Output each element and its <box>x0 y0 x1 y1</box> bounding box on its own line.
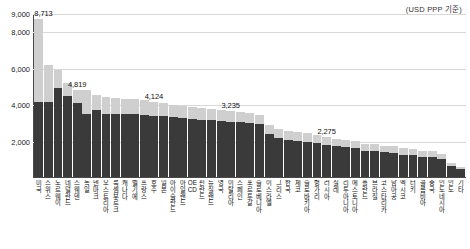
x-axis-label: 캐나다 <box>120 180 130 246</box>
x-axis-label: 기타 <box>456 180 466 246</box>
bar-segment-dark <box>102 114 111 177</box>
bar-segment-light <box>361 144 370 151</box>
x-axis-label: 중국 <box>427 180 437 246</box>
bar-segment-light <box>380 146 389 153</box>
bar-column <box>447 14 456 177</box>
bar-segment-dark <box>178 118 187 177</box>
bar-segment-light <box>217 110 226 121</box>
bar-column <box>217 14 226 177</box>
bar-segment-light <box>284 131 293 140</box>
bar-segment-dark <box>111 114 120 177</box>
x-axis-label: 스페인 <box>235 180 245 246</box>
x-axis-label: 러시아 <box>322 180 332 246</box>
bar-column <box>207 14 216 177</box>
bar-segment-dark <box>341 147 350 177</box>
bar-segment-dark <box>437 159 446 177</box>
x-axis-label: 헝가리 <box>312 180 322 246</box>
bar-column <box>188 14 197 177</box>
bar-segment-light <box>332 139 341 147</box>
chart-plot-area: 2,0004,0006,0008,0009,000 8,7134,8194,12… <box>33 14 466 178</box>
bar-column <box>418 14 427 177</box>
bar-segment-light <box>44 65 53 103</box>
x-axis-label: 벨기에 <box>130 180 140 246</box>
bar-column <box>159 14 168 177</box>
bar-column <box>63 14 72 177</box>
x-axis-label: 인도네시아 <box>437 180 447 246</box>
bar-segment-light <box>274 129 283 138</box>
bar-segment-dark <box>428 157 437 177</box>
bar-segment-dark <box>217 121 226 177</box>
bar-segment-light <box>293 132 302 140</box>
x-axis-label: 호주 <box>149 180 159 246</box>
x-axis-label: 슬로베니아 <box>255 180 265 246</box>
bar-segment-dark <box>351 148 360 177</box>
bar-column <box>399 14 408 177</box>
bar-segment-light <box>313 135 322 143</box>
bar-segment-light <box>188 107 197 119</box>
bar-segment-light <box>169 105 178 118</box>
unit-caption: (USD PPP 기준) <box>406 3 462 14</box>
x-axis-label: 룩셈부르크 <box>111 180 121 246</box>
bar-column <box>178 14 187 177</box>
bar-segment-dark <box>121 114 130 177</box>
bar-segment-light <box>92 95 101 109</box>
bar-segment-dark <box>54 88 63 177</box>
bar-segment-dark <box>370 151 379 177</box>
bar-column <box>44 14 53 177</box>
bar-segment-light <box>322 137 331 145</box>
bar-segment-light <box>341 140 350 147</box>
bar-segment-light <box>159 103 168 116</box>
bar-segment-dark <box>140 115 149 177</box>
bar-segment-light <box>73 90 82 103</box>
bar-segment-dark <box>130 114 139 177</box>
x-axis-label: 슬로바키아 <box>303 180 313 246</box>
bar-segment-dark <box>255 124 264 177</box>
bar-segment-dark <box>332 146 341 177</box>
x-axis-label: 멕시코 <box>399 180 409 246</box>
bar-column <box>351 14 360 177</box>
bar-segment-light <box>140 100 149 114</box>
bar-segment-light <box>121 99 130 114</box>
bar-segment-dark <box>149 116 158 177</box>
bar-segment-dark <box>456 169 465 177</box>
bar-segment-dark <box>63 96 72 178</box>
bar-segment-light <box>149 102 158 115</box>
bar-segment-dark <box>265 134 274 177</box>
x-axis-label: 브라질 <box>370 180 380 246</box>
bar-column <box>370 14 379 177</box>
bar-segment-light <box>54 70 63 88</box>
bar-segment-dark <box>322 145 331 177</box>
bar-segment-light <box>370 144 379 151</box>
bar-segment-dark <box>399 155 408 177</box>
x-axis-label: 이스라엘 <box>264 180 274 246</box>
bar-segment-light <box>207 109 216 120</box>
x-axis-label: 노르웨이 <box>53 180 63 246</box>
bar-column <box>303 14 312 177</box>
bar-segment-dark <box>284 140 293 177</box>
bar-segment-light <box>265 125 274 134</box>
bar-segment-light <box>197 108 206 120</box>
x-axis-label: 핀란드 <box>197 180 207 246</box>
bar-segment-dark <box>447 166 456 177</box>
bar-column <box>313 14 322 177</box>
bar-segment-dark <box>92 110 101 177</box>
bar-segment-dark <box>207 120 216 177</box>
bar-column <box>389 14 398 177</box>
x-axis-label: 프랑스 <box>140 180 150 246</box>
bar-series: 8,7134,8194,1243,2352,275 <box>34 14 466 177</box>
bar-column <box>361 14 370 177</box>
y-tick-label-8000: 8,000 <box>11 28 30 37</box>
bar-segment-light <box>34 19 43 102</box>
bar-segment-dark <box>169 117 178 177</box>
bar-segment-light <box>111 98 120 114</box>
x-axis-label: 독일 <box>82 180 92 246</box>
bar-segment-dark <box>409 155 418 177</box>
bar-segment-light <box>255 115 264 124</box>
bar-column <box>245 14 254 177</box>
bottom-crop-edge <box>0 244 470 249</box>
x-axis-label: 오스트리아 <box>101 180 111 246</box>
bar-segment-light <box>226 111 235 122</box>
bar-column <box>274 14 283 177</box>
bar-segment-dark <box>274 138 283 177</box>
x-axis-label: 영국 <box>216 180 226 246</box>
